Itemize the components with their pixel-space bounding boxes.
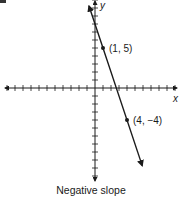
coordinate-plane: (1, 5)(4, −4) xy (0, 0, 182, 200)
point-label: (4, −4) (133, 115, 162, 126)
x-axis-label: x (172, 93, 179, 104)
negative-slope-line (89, 6, 142, 166)
y-axis-label: y (99, 0, 106, 11)
axes (5, 0, 177, 181)
chart-caption: Negative slope (0, 184, 182, 196)
point-label: (1, 5) (109, 43, 132, 54)
data-point (101, 46, 105, 50)
data-point (125, 118, 129, 122)
